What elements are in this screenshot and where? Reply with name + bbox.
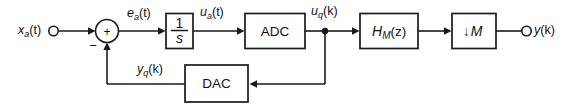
signal-label-y-q-k: yq(k) — [136, 62, 163, 78]
arrowhead-into-filter — [352, 27, 360, 34]
signal-label-u-q-k: uq(k) — [311, 4, 338, 20]
arrowhead-into-summer-minus — [103, 43, 110, 51]
output-label-tail: (k) — [540, 23, 555, 37]
integrator-denominator: s — [176, 30, 183, 46]
u-q-k-main: u — [311, 4, 318, 18]
u-a-t-main: u — [200, 5, 207, 19]
block-diagram-svg: + − 1 s ADC HM(z) ↓M DAC xa(t) y(k) — [0, 0, 572, 111]
output-terminal-label: y(k) — [533, 23, 555, 37]
adc-label: ADC — [261, 24, 290, 39]
input-terminal-circle — [49, 26, 58, 35]
e-a-t-tail: (t) — [139, 6, 151, 20]
arrowhead-into-adc — [237, 27, 245, 34]
arrowhead-into-summer — [88, 27, 96, 34]
filter-label-tail: (z) — [390, 24, 406, 39]
arrowhead-into-decimator — [444, 27, 452, 34]
decimator-label-main: M — [471, 23, 483, 39]
e-a-t-main: e — [127, 6, 134, 20]
arrowhead-into-dac — [250, 80, 258, 87]
summer-plus-sign: + — [103, 25, 110, 39]
y-q-k-tail: (k) — [148, 62, 163, 76]
integrator-numerator: 1 — [176, 15, 184, 31]
output-terminal-circle — [522, 26, 531, 35]
dac-label: DAC — [202, 76, 231, 91]
decimator-arrow-glyph: ↓ — [463, 24, 470, 39]
input-terminal-label: xa(t) — [17, 23, 41, 39]
signal-label-e-a-t: ea(t) — [127, 6, 151, 22]
u-q-k-tail: (k) — [323, 4, 338, 18]
input-label-tail: (t) — [29, 23, 41, 37]
arrowhead-into-integrator — [158, 27, 166, 34]
u-a-t-tail: (t) — [212, 5, 224, 19]
signal-label-u-a-t: ua(t) — [200, 5, 224, 21]
summer-minus-sign: − — [89, 38, 97, 53]
decimator-label: ↓M — [463, 23, 483, 39]
signal-tap-node-dot — [322, 28, 328, 34]
block-diagram-canvas: + − 1 s ADC HM(z) ↓M DAC xa(t) y(k) — [0, 0, 572, 111]
